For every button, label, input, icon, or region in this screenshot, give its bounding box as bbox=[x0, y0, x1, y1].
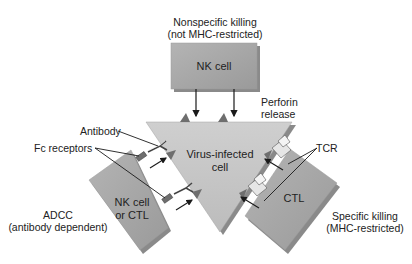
fc-receptor-icon bbox=[136, 151, 147, 161]
nk-or-ctl-label: NK cell or CTL bbox=[104, 196, 160, 222]
virus-infected-cell-label: Virus-infected cell bbox=[172, 148, 268, 174]
nonspecific-killing-label: Nonspecific killing (not MHC-restricted) bbox=[150, 16, 280, 40]
adcc-label: ADCC (antibody dependent) bbox=[8, 209, 108, 233]
fc-receptors-label: Fc receptors bbox=[34, 142, 92, 154]
fc-receptor-icon bbox=[162, 193, 173, 203]
ctl-right-label: CTL bbox=[274, 192, 314, 205]
perforin-arrows bbox=[196, 89, 234, 116]
perforin-release-label: Perforin release bbox=[261, 96, 298, 120]
specific-killing-label: Specific killing (MHC-restricted) bbox=[320, 210, 410, 234]
tcr-label: TCR bbox=[316, 142, 338, 154]
mhc-bump-icon bbox=[218, 113, 228, 122]
antibody-icon bbox=[174, 183, 193, 194]
antibody-label: Antibody bbox=[80, 125, 121, 137]
nk-cell-top-label: NK cell bbox=[171, 60, 257, 73]
mhc-bump-icon bbox=[180, 113, 190, 122]
immune-killing-diagram: Nonspecific killing (not MHC-restricted)… bbox=[0, 0, 412, 264]
